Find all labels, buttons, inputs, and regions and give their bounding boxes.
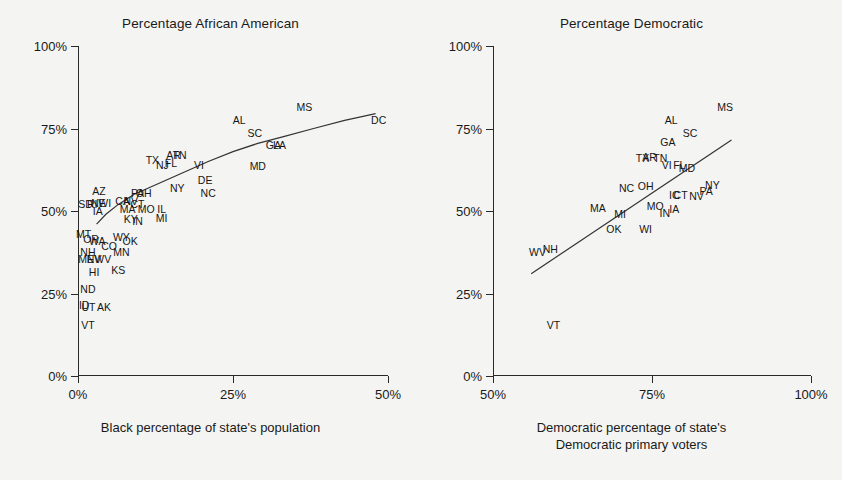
chart-title-right: Percentage Democratic <box>421 16 842 31</box>
chart-panel-left: Percentage African American 0%25%50%75%1… <box>0 0 421 480</box>
data-point-label: MN <box>113 246 129 258</box>
chart-title-left: Percentage African American <box>0 16 421 31</box>
y-tick-left <box>71 294 78 295</box>
data-point-label: LA <box>273 139 286 151</box>
x-tick-right <box>811 376 812 383</box>
data-point-label: NH <box>543 243 558 255</box>
data-point-label: VI <box>662 159 672 171</box>
data-point-label: KS <box>111 264 125 276</box>
data-point-label: NC <box>619 182 634 194</box>
x-tick-label-right: 75% <box>639 387 665 402</box>
data-point-label: MI <box>614 208 626 220</box>
data-point-label: AL <box>665 114 678 126</box>
data-point-label: DC <box>371 114 386 126</box>
data-point-label: NC <box>201 187 216 199</box>
x-tick-label-left: 25% <box>220 387 246 402</box>
data-point-label: ND <box>80 283 95 295</box>
data-point-label: WI <box>639 223 652 235</box>
x-axis-caption-left: Black percentage of state's population <box>0 419 421 436</box>
plot-area-left: 0%25%50%75%100%0%25%50%DCMSALSCGALAMDVID… <box>78 46 388 376</box>
data-point-label: OH <box>136 187 152 199</box>
data-point-label: UT <box>82 301 96 313</box>
x-tick-left <box>78 376 79 383</box>
data-point-label: MS <box>717 101 733 113</box>
figure-root: Percentage African American 0%25%50%75%1… <box>0 0 842 480</box>
y-tick-label-left: 75% <box>41 121 67 136</box>
y-tick-right <box>486 129 493 130</box>
x-tick-label-right: 50% <box>480 387 506 402</box>
data-point-label: NV <box>689 190 704 202</box>
y-tick-label-right: 100% <box>449 39 482 54</box>
x-tick-label-left: 50% <box>375 387 401 402</box>
data-point-label: OH <box>638 180 654 192</box>
data-point-label: MS <box>296 101 312 113</box>
y-tick-left <box>71 46 78 47</box>
data-point-label: OK <box>122 235 137 247</box>
x-tick-left <box>388 376 389 383</box>
data-point-label: HI <box>89 266 100 278</box>
data-point-label: NJ <box>156 159 169 171</box>
data-point-label: MO <box>138 203 155 215</box>
x-axis-caption-line: Black percentage of state's population <box>0 419 421 436</box>
y-tick-right <box>486 46 493 47</box>
data-point-label: MD <box>679 162 695 174</box>
data-point-label: SC <box>247 127 262 139</box>
y-tick-left <box>71 211 78 212</box>
data-point-label: IN <box>132 215 143 227</box>
data-point-label: NY <box>170 182 185 194</box>
data-point-label: MD <box>250 160 266 172</box>
data-point-label: AK <box>97 301 111 313</box>
y-tick-label-right: 0% <box>463 369 482 384</box>
data-point-label: WV <box>94 253 111 265</box>
y-tick-right <box>486 294 493 295</box>
data-point-label: SC <box>683 127 698 139</box>
data-point-label: IA <box>93 205 103 217</box>
x-tick-label-left: 0% <box>69 387 88 402</box>
y-tick-right <box>486 211 493 212</box>
x-axis-caption-line: Democratic primary voters <box>421 436 842 453</box>
y-tick-left <box>71 376 78 377</box>
x-axis-caption-line: Democratic percentage of state's <box>421 419 842 436</box>
data-point-label: VT <box>81 319 94 331</box>
y-tick-right <box>486 376 493 377</box>
y-tick-label-left: 100% <box>34 39 67 54</box>
y-tick-left <box>71 129 78 130</box>
data-point-label: OK <box>606 223 621 235</box>
y-tick-label-right: 25% <box>456 286 482 301</box>
x-tick-label-right: 100% <box>794 387 827 402</box>
y-tick-label-left: 50% <box>41 204 67 219</box>
chart-panel-right: Percentage Democratic 0%25%50%75%100%50%… <box>421 0 842 480</box>
x-tick-left <box>233 376 234 383</box>
data-point-label: IA <box>669 203 679 215</box>
data-point-label: DE <box>198 174 213 186</box>
data-point-label: MI <box>156 212 168 224</box>
data-point-label: MA <box>590 202 606 214</box>
x-tick-right <box>652 376 653 383</box>
data-point-label: IC <box>669 189 680 201</box>
data-point-label: AZ <box>92 185 105 197</box>
data-point-label: GA <box>660 136 675 148</box>
y-tick-label-left: 25% <box>41 286 67 301</box>
x-tick-right <box>493 376 494 383</box>
y-tick-label-right: 75% <box>456 121 482 136</box>
plot-area-right: 0%25%50%75%100%50%75%100%MSALSCGATXARTNV… <box>493 46 811 376</box>
x-axis-caption-right: Democratic percentage of state'sDemocrat… <box>421 419 842 453</box>
data-point-label: VI <box>194 159 204 171</box>
data-point-label: AL <box>233 114 246 126</box>
y-tick-label-right: 50% <box>456 204 482 219</box>
y-tick-label-left: 0% <box>48 369 67 384</box>
data-point-label: VT <box>547 319 560 331</box>
